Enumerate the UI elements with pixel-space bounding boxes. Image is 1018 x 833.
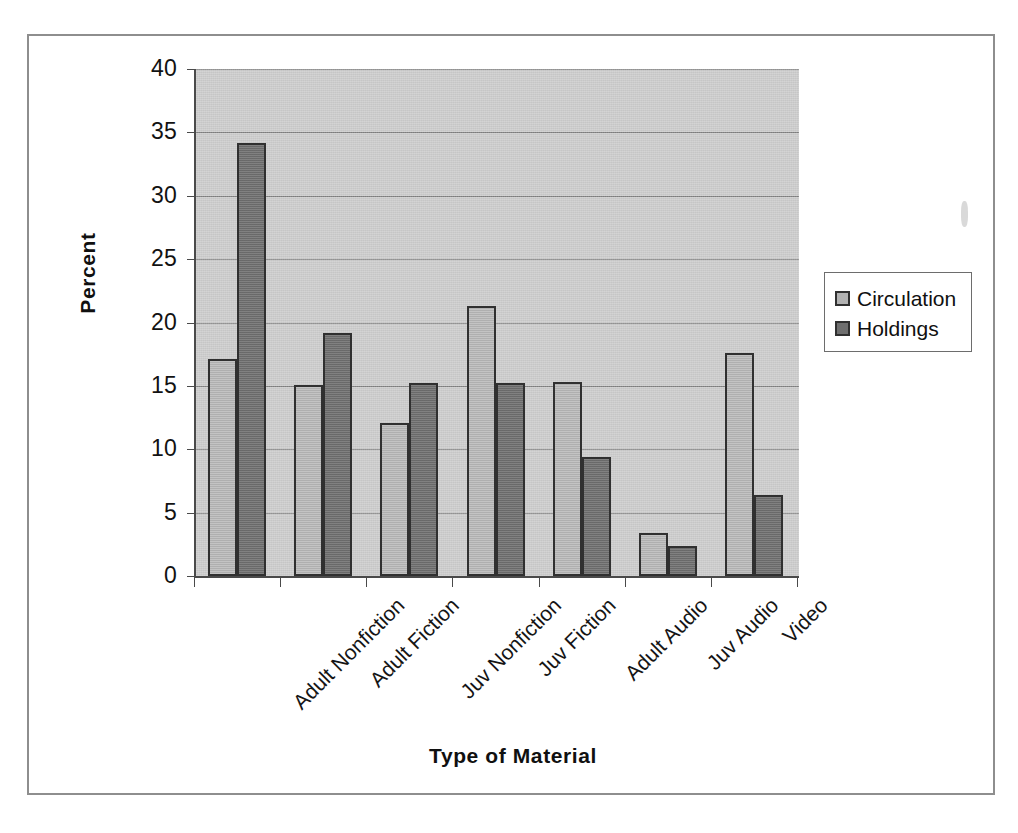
y-tick-label: 30: [89, 184, 177, 207]
y-axis-title: Percent: [76, 232, 100, 313]
bar-holdings-4: [582, 457, 611, 576]
bar-circulation-4: [553, 382, 582, 576]
gridline: [196, 132, 799, 133]
x-tick-mark: [797, 578, 798, 587]
chart-legend: Circulation Holdings: [824, 272, 972, 352]
legend-swatch-holdings: [835, 321, 850, 336]
y-tick-mark: [187, 259, 194, 260]
y-tick-label: 40: [89, 57, 177, 80]
legend-item-circulation[interactable]: Circulation: [835, 283, 971, 313]
bar-circulation-3: [467, 306, 496, 576]
bar-circulation-2: [380, 423, 409, 576]
y-tick-mark: [187, 69, 194, 70]
legend-label-circulation: Circulation: [857, 288, 956, 309]
bar-chart: Percent Type of Material Circulation Hol…: [29, 36, 997, 797]
bar-holdings-3: [496, 383, 525, 576]
y-tick-mark: [187, 576, 194, 577]
y-tick-mark: [187, 323, 194, 324]
x-tick-mark: [452, 578, 453, 587]
x-tick-mark: [625, 578, 626, 587]
x-category-label: Adult Audio: [621, 594, 712, 685]
x-tick-mark: [280, 578, 281, 587]
gridline: [196, 323, 799, 324]
y-tick-mark: [187, 132, 194, 133]
legend-swatch-circulation: [835, 291, 850, 306]
bar-circulation-1: [294, 385, 323, 576]
y-tick-mark: [187, 196, 194, 197]
x-tick-mark: [539, 578, 540, 587]
y-tick-mark: [187, 513, 194, 514]
gridline: [196, 196, 799, 197]
y-tick-mark: [187, 449, 194, 450]
y-tick-label: 20: [89, 311, 177, 334]
y-tick-label: 35: [89, 120, 177, 143]
bar-holdings-5: [668, 546, 697, 576]
gridline: [196, 259, 799, 260]
bar-holdings-0: [237, 143, 266, 576]
bar-circulation-6: [725, 353, 754, 576]
x-axis-title: Type of Material: [29, 744, 997, 768]
y-tick-label: 15: [89, 374, 177, 397]
x-tick-mark: [711, 578, 712, 587]
y-tick-label: 25: [89, 247, 177, 270]
bar-circulation-5: [639, 533, 668, 576]
bar-holdings-2: [409, 383, 438, 576]
x-tick-mark: [366, 578, 367, 587]
y-tick-label: 10: [89, 437, 177, 460]
legend-item-holdings[interactable]: Holdings: [835, 313, 971, 343]
figure-frame: Percent Type of Material Circulation Hol…: [27, 34, 995, 795]
bar-holdings-1: [323, 333, 352, 576]
y-tick-label: 5: [89, 501, 177, 524]
x-tick-mark: [194, 578, 195, 587]
bar-holdings-6: [754, 495, 783, 576]
y-tick-label: 0: [89, 564, 177, 587]
x-category-label: Video: [778, 594, 831, 647]
gridline: [196, 69, 799, 70]
scan-artifact: [961, 201, 968, 227]
bar-circulation-0: [208, 359, 237, 576]
y-tick-mark: [187, 386, 194, 387]
legend-label-holdings: Holdings: [857, 318, 939, 339]
x-category-label: Juv Audio: [703, 594, 783, 674]
